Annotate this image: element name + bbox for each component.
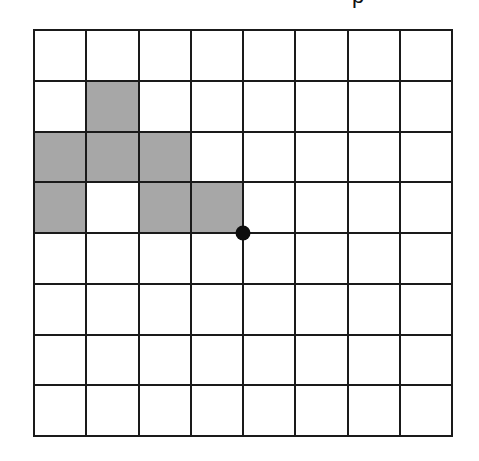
grid-cell — [348, 30, 400, 81]
grid-cell — [139, 284, 191, 335]
grid-cell — [295, 233, 347, 284]
grid-cell — [243, 30, 295, 81]
grid-cell — [348, 182, 400, 233]
grid-cell-shaded — [139, 182, 191, 233]
grid-cell — [295, 284, 347, 335]
grid-cell — [295, 132, 347, 183]
grid-cell — [86, 335, 138, 386]
grid-cell — [295, 182, 347, 233]
grid-point-marker — [236, 226, 251, 241]
grid-cell — [243, 233, 295, 284]
grid-cell — [191, 233, 243, 284]
grid-cell — [139, 81, 191, 132]
grid-cell — [295, 81, 347, 132]
grid-cell-shaded — [86, 81, 138, 132]
grid-cell — [139, 30, 191, 81]
grid-cell — [86, 182, 138, 233]
grid-cell — [348, 233, 400, 284]
grid-cell — [400, 182, 452, 233]
grid-cell — [86, 284, 138, 335]
grid-cell — [295, 30, 347, 81]
grid-cell — [34, 233, 86, 284]
grid-cell — [191, 335, 243, 386]
grid-cell — [243, 132, 295, 183]
grid-cell — [400, 385, 452, 436]
grid-cell — [86, 233, 138, 284]
grid-cell-shaded — [34, 182, 86, 233]
grid-cell — [34, 284, 86, 335]
grid-cell — [348, 335, 400, 386]
grid-cell-shaded — [139, 132, 191, 183]
grid-cell — [295, 385, 347, 436]
grid-cell — [191, 132, 243, 183]
grid-cell — [86, 30, 138, 81]
grid-cell — [34, 385, 86, 436]
grid-cell — [139, 385, 191, 436]
grid-cell — [348, 385, 400, 436]
grid-cell — [348, 284, 400, 335]
grid-cell — [400, 30, 452, 81]
grid-cell — [34, 81, 86, 132]
grid-cell-shaded — [191, 182, 243, 233]
cropped-title-text: p — [352, 0, 364, 6]
grid-cell — [139, 335, 191, 386]
grid-cell — [243, 81, 295, 132]
grid-cell — [400, 132, 452, 183]
grid-cell-shaded — [34, 132, 86, 183]
grid-cell — [191, 30, 243, 81]
grid-cell — [400, 233, 452, 284]
grid-cell — [400, 284, 452, 335]
grid-cell — [34, 335, 86, 386]
grid-cell — [243, 284, 295, 335]
grid-cell — [34, 30, 86, 81]
grid-cell — [191, 385, 243, 436]
grid-cell — [243, 335, 295, 386]
grid-cell — [243, 182, 295, 233]
grid-cell — [243, 385, 295, 436]
grid-cell — [191, 284, 243, 335]
grid-cell — [400, 81, 452, 132]
grid-cell-shaded — [86, 132, 138, 183]
grid-cell — [348, 132, 400, 183]
grid-cell — [191, 81, 243, 132]
grid-cell — [295, 335, 347, 386]
grid-cell — [400, 335, 452, 386]
grid-cell — [86, 385, 138, 436]
grid-cell — [139, 233, 191, 284]
grid-cell — [348, 81, 400, 132]
